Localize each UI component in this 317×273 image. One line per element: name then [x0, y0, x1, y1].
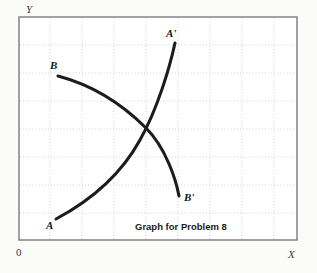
label-b-prime: B': [183, 191, 194, 203]
figure-caption: Graph for Problem 8: [135, 221, 227, 232]
x-axis-label: X: [287, 248, 296, 260]
label-b: B: [49, 59, 57, 71]
graph-figure: Y X 0 A A' B B' Graph for Problem 8: [0, 0, 317, 273]
label-a: A: [45, 219, 53, 231]
label-a-prime: A': [165, 27, 176, 39]
figure-screenshot: Y X 0 A A' B B' Graph for Problem 8: [0, 0, 317, 273]
origin-label: 0: [16, 246, 22, 258]
plot-frame: [19, 17, 297, 240]
